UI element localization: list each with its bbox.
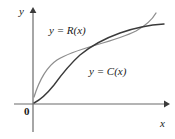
origin-label: 0	[24, 106, 30, 117]
revenue-curve-label: y = R(x)	[49, 25, 86, 36]
x-axis-label: x	[160, 118, 165, 129]
x-axis-arrowhead	[164, 101, 170, 108]
revenue-cost-graph-figure: y x 0 y = R(x) y = C(x)	[0, 0, 175, 139]
y-axis-arrowhead	[30, 7, 37, 13]
cost-curve-label: y = C(x)	[89, 66, 126, 77]
plot-canvas	[0, 0, 175, 139]
y-axis-label: y	[19, 6, 24, 17]
